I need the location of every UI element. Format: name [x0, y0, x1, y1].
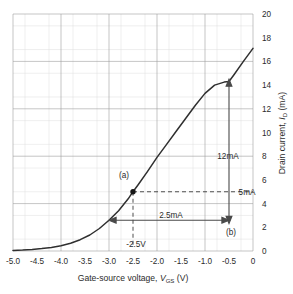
- y-axis-title: Drain current, ID (mA): [277, 92, 288, 174]
- label-2.5ma: 2.5mA: [159, 211, 183, 220]
- x-tick-0: -5.0: [6, 257, 21, 266]
- y-tick-0: 0: [262, 247, 267, 256]
- x-axis-title-post: (V): [174, 273, 188, 283]
- x-tick-3: -3.5: [78, 257, 93, 266]
- x-tick-7: -1.5: [174, 257, 189, 266]
- y-tick-9: 18: [262, 34, 272, 43]
- label-5ma: 5mA: [239, 188, 256, 197]
- point-a-marker: [130, 189, 135, 194]
- y-tick-7: 14: [262, 81, 272, 90]
- label-point-a: (a): [119, 171, 129, 180]
- y-tick-10: 20: [262, 10, 272, 19]
- x-tick-9: -0.5: [222, 257, 237, 266]
- y-tick-3: 6: [262, 176, 267, 185]
- x-tick-4: -3.0: [102, 257, 117, 266]
- x-tick-5: -2.5: [126, 257, 141, 266]
- x-tick-8: -1.0: [198, 257, 213, 266]
- x-tick-6: -2.0: [150, 257, 165, 266]
- x-tick-10: 0: [251, 257, 256, 266]
- x-tick-2: -4.0: [54, 257, 69, 266]
- y-tick-4: 8: [262, 152, 267, 161]
- y-tick-2: 4: [262, 200, 267, 209]
- label-12ma: 12mA: [217, 152, 239, 161]
- x-axis-title-pre: Gate-source voltage,: [78, 273, 160, 283]
- label-point-b: (b): [226, 228, 236, 237]
- chart-background: [0, 0, 293, 294]
- y-tick-1: 2: [262, 223, 267, 232]
- y-tick-5: 10: [262, 129, 272, 138]
- y-axis-title-post: (mA): [277, 92, 287, 113]
- y-tick-8: 16: [262, 57, 272, 66]
- chart-container: (a) (b) 12mA 2.5mA 5mA -2.5V -5.0 -4.5 -…: [0, 0, 293, 294]
- y-tick-6: 12: [262, 105, 272, 114]
- x-axis-title-subscript: GS: [166, 277, 175, 284]
- x-tick-1: -4.5: [30, 257, 45, 266]
- transfer-characteristic-chart: (a) (b) 12mA 2.5mA 5mA -2.5V -5.0 -4.5 -…: [0, 0, 293, 294]
- y-axis-title-pre: Drain current,: [277, 120, 287, 174]
- label-minus-2.5v: -2.5V: [126, 240, 146, 249]
